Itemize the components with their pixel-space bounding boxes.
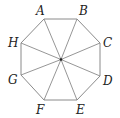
- vertex-label-h: H: [7, 36, 19, 50]
- vertex-label-d: D: [102, 74, 113, 88]
- vertex-label-f: F: [35, 103, 45, 117]
- vertex-label-c: C: [103, 36, 112, 50]
- center-point: [60, 58, 63, 61]
- vertex-label-g: G: [8, 73, 18, 87]
- vertex-label-a: A: [35, 4, 45, 18]
- vertex-label-b: B: [78, 4, 88, 18]
- octagon-diagram: ABCDEFGH: [0, 0, 120, 118]
- vertex-label-e: E: [75, 103, 85, 117]
